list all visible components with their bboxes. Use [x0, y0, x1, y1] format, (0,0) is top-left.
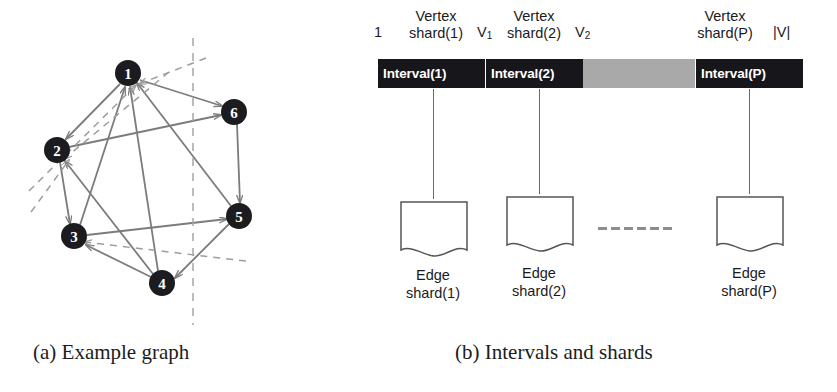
- ellipsis-dash-4: [637, 227, 646, 230]
- ellipsis-dash-1: [598, 227, 607, 230]
- edge-5-1: [137, 83, 231, 206]
- edge-shard-1-shape[interactable]: [398, 199, 468, 260]
- vertex-shard-p-label: Vertex shard(P): [688, 8, 762, 42]
- interval-segment-1[interactable]: Interval(1): [378, 59, 485, 88]
- axis-label-v2-text: V: [575, 24, 585, 40]
- vertex-shard-p-line2: shard(P): [697, 25, 753, 41]
- axis-label-start: 1: [374, 24, 382, 41]
- edge-shard-p-shape[interactable]: [714, 194, 784, 255]
- leader-line-p: [749, 89, 750, 194]
- edge-3-5: [87, 219, 227, 235]
- edge-6-5: [237, 124, 240, 203]
- graph-node-2-label: 2: [53, 143, 61, 159]
- graph-node-1-label: 1: [124, 66, 132, 82]
- ellipsis-dash-2: [611, 227, 620, 230]
- leader-line-2: [539, 89, 540, 194]
- edge-shard-1-label: Edge shard(1): [393, 266, 473, 302]
- panel-example-graph: 1 2 3 4 5: [0, 0, 420, 392]
- edge-2-3: [60, 162, 70, 224]
- graph-node-3[interactable]: 3: [61, 223, 87, 249]
- example-graph-svg: 1 2 3 4 5: [0, 0, 420, 340]
- graph-nodes: 1 2 3 4 5: [44, 60, 252, 296]
- edge-shard-p-label: Edge shard(P): [709, 264, 789, 300]
- ellipsis-dash-3: [624, 227, 633, 230]
- graph-node-4-label: 4: [158, 276, 166, 292]
- interval-segment-2[interactable]: Interval(2): [485, 59, 583, 88]
- vertex-shard-2-line1: Vertex: [513, 8, 554, 24]
- graph-node-3-label: 3: [70, 229, 78, 245]
- axis-label-v1-subscript: 1: [487, 30, 493, 41]
- edge-5-4: [175, 224, 229, 278]
- graph-node-5[interactable]: 5: [226, 203, 252, 229]
- edge-2-6: [69, 115, 221, 147]
- vertex-shard-2-line2: shard(2): [507, 25, 561, 41]
- leader-line-1: [433, 89, 434, 199]
- edge-3-1: [80, 87, 125, 225]
- interval-bar: Interval(1) Interval(2) Interval(P): [378, 59, 803, 88]
- edge-1-2: [66, 84, 120, 139]
- ellipsis-dashes: [598, 227, 670, 230]
- edge-4-3: [86, 245, 151, 277]
- figure-root: 1 2 3 4 5: [0, 0, 837, 392]
- graph-edges-solid: [60, 80, 240, 278]
- vertex-shard-1-label: Vertex shard(1): [399, 8, 473, 42]
- ellipsis-dash-5: [650, 227, 659, 230]
- edge-shard-2-shape[interactable]: [504, 194, 574, 255]
- caption-intervals-and-shards: (b) Intervals and shards: [455, 340, 653, 365]
- axis-label-v2-subscript: 2: [585, 30, 591, 41]
- edge-shard-1-line2: shard(1): [406, 285, 460, 301]
- vertex-shard-1-line1: Vertex: [415, 8, 456, 24]
- edge-shard-2-label: Edge shard(2): [499, 264, 579, 300]
- edge-shard-2-line2: shard(2): [512, 283, 566, 299]
- ellipsis-dash-6: [663, 227, 672, 230]
- edge-shard-2-line1: Edge: [522, 265, 556, 281]
- axis-label-v1: V1: [477, 24, 492, 44]
- graph-node-5-label: 5: [235, 209, 243, 225]
- graph-node-6-label: 6: [230, 105, 238, 121]
- axis-label-end: |V|: [773, 24, 790, 41]
- vertex-shard-1-line2: shard(1): [409, 25, 463, 41]
- graph-node-2[interactable]: 2: [44, 137, 70, 163]
- edge-shard-1-line1: Edge: [416, 267, 450, 283]
- graph-node-6[interactable]: 6: [221, 99, 247, 125]
- interval-segment-gap: [583, 59, 695, 88]
- axis-label-v2: V2: [575, 24, 590, 44]
- vertex-shard-p-line1: Vertex: [704, 8, 745, 24]
- graph-node-1[interactable]: 1: [115, 60, 141, 86]
- edge-shard-p-line1: Edge: [732, 265, 766, 281]
- caption-example-graph: (a) Example graph: [33, 340, 189, 365]
- axis-label-v1-text: V: [477, 24, 487, 40]
- cut-edge-a: [139, 58, 206, 84]
- panel-intervals-and-shards: 1 Vertex shard(1) V1 Vertex shard(2) V2 …: [420, 0, 837, 392]
- cut-edge-e: [84, 242, 246, 261]
- edge-4-1: [130, 87, 158, 271]
- graph-node-4[interactable]: 4: [149, 270, 175, 296]
- vertex-shard-2-label: Vertex shard(2): [497, 8, 571, 42]
- edge-shard-p-line2: shard(P): [721, 283, 777, 299]
- interval-segment-p[interactable]: Interval(P): [695, 59, 803, 88]
